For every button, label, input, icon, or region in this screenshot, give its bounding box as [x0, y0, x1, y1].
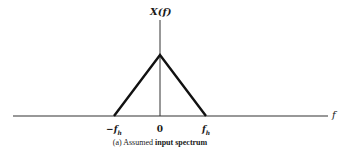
tick-label: 0 — [157, 124, 163, 134]
tick-pos-fh: fh — [202, 125, 210, 136]
x-axis-label: f — [332, 110, 336, 120]
caption-emphasis: input spectrum — [155, 138, 207, 147]
tick-label: −f — [106, 124, 117, 134]
tick-zero: 0 — [157, 125, 163, 134]
caption-prefix: (a) Assumed — [113, 138, 153, 147]
tick-subscript: h — [118, 129, 122, 136]
spectrum-plot — [0, 0, 348, 152]
tick-neg-fh: −fh — [106, 125, 122, 136]
y-axis-label: X(f) — [150, 7, 172, 17]
figure-caption: (a) Assumed input spectrum — [113, 139, 207, 147]
tick-subscript: h — [206, 129, 210, 136]
